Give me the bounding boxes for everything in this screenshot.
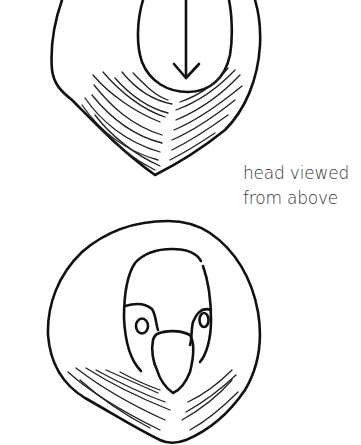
head-front-view-sketch — [48, 221, 260, 443]
outer-head-outline — [52, 0, 261, 175]
face-mask — [124, 249, 211, 371]
feather-hatching-left-lower — [68, 368, 170, 430]
outer-head-circle — [48, 221, 260, 443]
feather-hatching-left — [82, 72, 172, 170]
illustration-canvas — [0, 0, 361, 445]
left-eye-icon — [136, 319, 148, 334]
right-eye-icon — [200, 313, 209, 327]
direction-arrow-icon — [174, 0, 199, 78]
beak-icon — [152, 331, 193, 393]
figure-caption: head viewed from above — [243, 161, 349, 211]
feather-hatching-right — [170, 68, 242, 160]
feather-hatching-right-lower — [182, 370, 238, 430]
caption-line-2: from above — [243, 186, 349, 211]
eye-patch-left — [125, 304, 158, 330]
head-top-view-sketch — [52, 0, 261, 175]
caption-line-1: head viewed — [243, 161, 349, 186]
